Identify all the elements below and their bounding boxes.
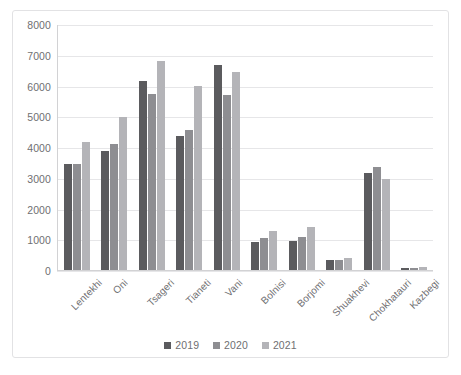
bar-group xyxy=(58,25,96,270)
x-label-slot: Lentekhi xyxy=(58,273,96,335)
bar[interactable] xyxy=(223,95,231,270)
bar[interactable] xyxy=(401,268,409,270)
bar-group xyxy=(208,25,246,270)
bar-group xyxy=(96,25,134,270)
chart-legend: 201920202021 xyxy=(13,339,448,351)
legend-swatch-icon xyxy=(262,342,269,349)
bar[interactable] xyxy=(335,260,343,270)
x-axis-tick-labels: LentekhiOniTsageriTianetiVaniBolnisiBorj… xyxy=(58,273,434,335)
chart-frame: 010002000300040005000600070008000 Lentek… xyxy=(12,10,449,358)
bar[interactable] xyxy=(382,179,390,270)
bar[interactable] xyxy=(344,258,352,270)
legend-entry[interactable]: 2021 xyxy=(262,339,297,351)
bar[interactable] xyxy=(298,237,306,270)
bar[interactable] xyxy=(289,241,297,270)
bar[interactable] xyxy=(157,61,165,270)
bar[interactable] xyxy=(364,173,372,270)
y-tick-label: 8000 xyxy=(27,19,51,31)
bar[interactable] xyxy=(73,164,81,270)
bar-group xyxy=(283,25,321,270)
bar[interactable] xyxy=(326,260,334,270)
bar[interactable] xyxy=(185,130,193,270)
bar[interactable] xyxy=(194,86,202,270)
x-label-slot: Shuakhevi xyxy=(321,273,359,335)
bar-group xyxy=(358,25,396,270)
bars-layer xyxy=(58,25,433,270)
x-label-slot: Vani xyxy=(208,273,246,335)
y-tick-label: 1000 xyxy=(27,234,51,246)
bar[interactable] xyxy=(373,167,381,270)
y-tick-label: 6000 xyxy=(27,81,51,93)
x-label-slot: Borjomi xyxy=(284,273,322,335)
bar-group xyxy=(396,25,434,270)
x-label-slot: Tsageri xyxy=(133,273,171,335)
bar[interactable] xyxy=(307,227,315,270)
x-label-slot: Kazbegi xyxy=(396,273,434,335)
bar[interactable] xyxy=(260,238,268,270)
bar[interactable] xyxy=(82,142,90,270)
legend-label: 2019 xyxy=(175,339,199,351)
bar[interactable] xyxy=(110,144,118,270)
legend-label: 2020 xyxy=(224,339,248,351)
bar[interactable] xyxy=(176,136,184,270)
bar[interactable] xyxy=(101,151,109,270)
y-tick-label: 0 xyxy=(45,265,51,277)
gridline xyxy=(57,271,433,272)
bar[interactable] xyxy=(64,164,72,270)
bar[interactable] xyxy=(232,72,240,270)
legend-entry[interactable]: 2020 xyxy=(213,339,248,351)
y-tick-label: 7000 xyxy=(27,50,51,62)
bar[interactable] xyxy=(251,242,259,270)
x-tick-label: Kazbegi xyxy=(408,277,442,311)
bar-group xyxy=(133,25,171,270)
bar[interactable] xyxy=(139,81,147,270)
y-tick-label: 4000 xyxy=(27,142,51,154)
y-tick-label: 3000 xyxy=(27,173,51,185)
y-tick-label: 5000 xyxy=(27,111,51,123)
x-tick-label: Oni xyxy=(111,277,130,296)
x-axis-line xyxy=(57,270,433,271)
x-label-slot: Tianeti xyxy=(171,273,209,335)
legend-swatch-icon xyxy=(164,342,171,349)
bar[interactable] xyxy=(148,94,156,270)
x-label-slot: Bolnisi xyxy=(246,273,284,335)
x-label-slot: Oni xyxy=(96,273,134,335)
y-tick-label: 2000 xyxy=(27,204,51,216)
x-label-slot: Chokhatauri xyxy=(359,273,397,335)
legend-swatch-icon xyxy=(213,342,220,349)
bar[interactable] xyxy=(214,65,222,270)
bar[interactable] xyxy=(119,117,127,270)
bar-group xyxy=(171,25,209,270)
legend-label: 2021 xyxy=(273,339,297,351)
bar[interactable] xyxy=(269,231,277,270)
bar[interactable] xyxy=(410,268,418,270)
plot-area: 010002000300040005000600070008000 xyxy=(57,25,433,271)
legend-entry[interactable]: 2019 xyxy=(164,339,199,351)
bar-group xyxy=(246,25,284,270)
bar-group xyxy=(321,25,359,270)
x-tick-label: Vani xyxy=(223,277,245,299)
bar[interactable] xyxy=(419,267,427,270)
